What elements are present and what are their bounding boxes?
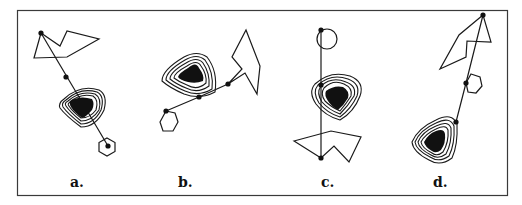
node-dot xyxy=(38,30,43,35)
irregular-polygon-shape xyxy=(34,31,99,58)
node-dot xyxy=(105,143,110,148)
node-dot xyxy=(163,108,168,113)
connector-line xyxy=(456,15,483,122)
node-dot xyxy=(318,155,323,160)
filled-core xyxy=(424,130,445,152)
irregular-polygon-shape xyxy=(228,30,260,94)
panel-c: c. xyxy=(294,27,361,190)
figure-diagram: a. b. c. xyxy=(0,0,522,205)
node-dot xyxy=(318,82,323,87)
node-dot xyxy=(63,74,68,79)
contour-target xyxy=(162,54,216,97)
node-dot xyxy=(453,119,458,124)
panel-b: b. xyxy=(160,30,260,190)
contour-target xyxy=(412,117,457,163)
contour-target xyxy=(60,88,106,127)
filled-core xyxy=(178,65,204,83)
panel-a: a. xyxy=(34,30,115,190)
filled-core xyxy=(325,87,348,111)
irregular-polygon-shape xyxy=(440,15,491,69)
contour-target xyxy=(312,74,362,120)
panel-label-b: b. xyxy=(178,174,193,190)
hexagon-shape xyxy=(160,111,178,131)
panel-d: d. xyxy=(412,12,491,190)
panel-label-c: c. xyxy=(321,174,334,190)
node-dot xyxy=(318,27,323,32)
node-dot xyxy=(196,94,201,99)
node-dot xyxy=(480,12,485,17)
panel-label-a: a. xyxy=(70,174,84,190)
panel-label-d: d. xyxy=(433,174,448,190)
node-dot xyxy=(225,81,230,86)
irregular-polygon-shape xyxy=(294,131,361,162)
node-dot xyxy=(463,80,468,85)
